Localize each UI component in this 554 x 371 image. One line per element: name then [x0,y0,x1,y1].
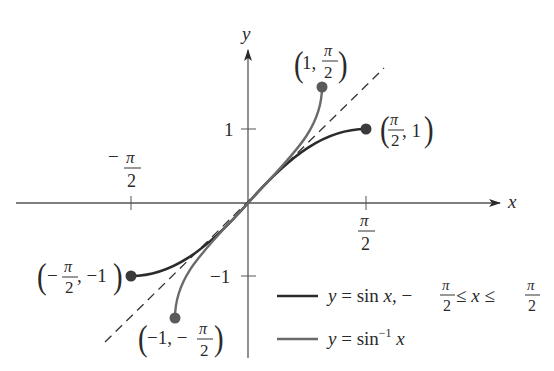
point-pi-half-one [361,124,372,135]
svg-text:−: − [108,146,119,167]
svg-text:π: π [199,320,208,337]
svg-text:π: π [527,277,535,293]
svg-text:2: 2 [324,63,333,82]
svg-text:, 1: , 1 [402,120,421,141]
svg-text:2: 2 [443,297,451,314]
svg-text:2: 2 [391,131,400,150]
svg-text:y = sin x, −: y = sin x, − [326,285,412,306]
legend: y = sin x, − π 2 ≤ x ≤ π 2 y = sin−1 x [277,277,540,349]
legend-entry-sin: y = sin x, − π 2 ≤ x ≤ π 2 [277,277,540,314]
svg-text:1,: 1, [302,52,316,73]
svg-text:(: ( [380,109,390,149]
svg-text:(: ( [37,256,47,296]
chart-canvas: x y − π 2 π 2 1 −1 ( 1, π 2 ) ( π 2 [0,0,554,371]
svg-text:π: π [442,277,450,293]
svg-text:2: 2 [127,171,136,191]
svg-text:2: 2 [65,278,74,297]
svg-text:2: 2 [528,297,536,314]
annotation-pi-half-one: ( π 2 , 1 ) [380,109,434,150]
svg-text:, −1: , −1 [77,265,107,286]
svg-text:): ) [113,256,123,296]
x-tick-label-pi-half: π 2 [358,211,375,254]
y-tick-label-one: 1 [224,119,234,140]
x-tick-label-neg-pi-half: − π 2 [108,146,141,191]
point-neg-one-neg-pi-half [170,313,181,324]
point-neg-pi-half-neg-one [126,271,137,282]
annotation-neg-one-neg-pi-half: ( −1, − π 2 ) [138,318,224,360]
svg-text:): ) [424,109,434,149]
svg-text:y = sin−1 x: y = sin−1 x [326,326,405,349]
svg-text:−1, −: −1, − [147,327,187,348]
x-axis-label: x [507,191,517,212]
legend-entry-arcsin: y = sin−1 x [277,326,405,349]
y-tick-label-neg-one: −1 [210,266,230,287]
svg-text:π: π [390,111,399,128]
svg-text:π: π [324,42,333,59]
svg-text:2: 2 [361,234,370,254]
svg-text:2: 2 [200,341,209,360]
annotation-neg-pi-half-neg-one: ( − π 2 , −1 ) [37,256,123,297]
svg-text:π: π [64,258,73,275]
annotation-one-pi-half: ( 1, π 2 ) [294,42,348,84]
svg-text:π: π [360,211,369,230]
point-one-pi-half [317,82,328,93]
svg-text:): ) [214,318,224,358]
svg-text:≤ x ≤: ≤ x ≤ [456,285,495,306]
svg-text:): ) [338,44,348,84]
svg-text:−: − [47,265,58,286]
svg-text:π: π [126,148,135,167]
y-axis-label: y [240,23,251,44]
